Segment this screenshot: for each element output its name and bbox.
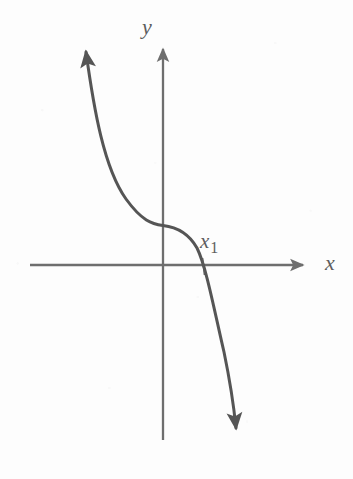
figure-canvas: y x x1 xyxy=(0,0,353,479)
root-label-symbol: x xyxy=(200,229,209,253)
graph-svg xyxy=(0,0,353,479)
y-axis-label: y xyxy=(142,16,152,38)
x-axis-label: x xyxy=(325,252,335,274)
root-label-subscript: 1 xyxy=(210,239,218,256)
root-tick xyxy=(203,258,205,275)
root-label-x1: x1 xyxy=(200,231,218,256)
